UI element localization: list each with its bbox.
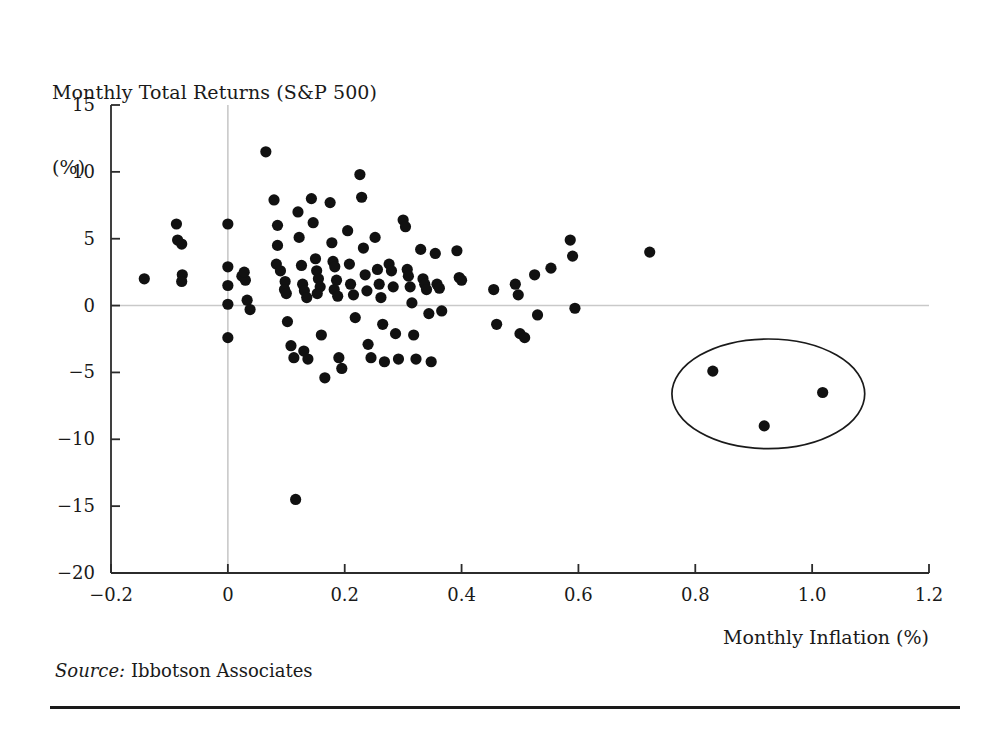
scatter-point — [301, 292, 312, 303]
scatter-point — [281, 288, 292, 299]
scatter-point — [393, 353, 404, 364]
scatter-point — [332, 291, 343, 302]
source-value: Ibbotson Associates — [131, 660, 313, 681]
scatter-point — [817, 387, 828, 398]
scatter-point — [345, 279, 356, 290]
scatter-point — [312, 288, 323, 299]
bottom-divider-rule — [50, 706, 960, 709]
x-tick-label: 0.8 — [681, 584, 710, 605]
scatter-point — [329, 261, 340, 272]
scatter-point — [222, 218, 233, 229]
scatter-point — [408, 329, 419, 340]
scatter-point — [388, 281, 399, 292]
scatter-point — [545, 263, 556, 274]
scatter-point — [513, 289, 524, 300]
scatter-point — [400, 221, 411, 232]
y-tick-label: 5 — [84, 228, 95, 249]
scatter-point — [176, 276, 187, 287]
scatter-point — [421, 284, 432, 295]
scatter-point — [410, 353, 421, 364]
scatter-point — [326, 237, 337, 248]
scatter-point — [244, 304, 255, 315]
y-tick-label: −5 — [68, 361, 95, 382]
scatter-point — [268, 194, 279, 205]
scatter-point — [567, 250, 578, 261]
x-axis-ticks: −0.200.20.40.60.81.01.2 — [89, 564, 943, 605]
scatter-point — [292, 206, 303, 217]
scatter-point — [306, 193, 317, 204]
scatter-point — [405, 281, 416, 292]
scatter-point — [331, 275, 342, 286]
scatter-point — [759, 420, 770, 431]
x-tick-label: −0.2 — [89, 584, 133, 605]
scatter-point — [403, 271, 414, 282]
scatter-point — [377, 319, 388, 330]
outlier-highlight-ellipse — [672, 339, 865, 449]
scatter-point — [356, 192, 367, 203]
scatter-point — [488, 284, 499, 295]
scatter-point — [360, 269, 371, 280]
annotations — [672, 339, 865, 449]
scatter-point — [379, 356, 390, 367]
scatter-point — [308, 217, 319, 228]
scatter-point — [239, 267, 250, 278]
scatter-point — [510, 279, 521, 290]
scatter-point — [362, 339, 373, 350]
scatter-point — [565, 234, 576, 245]
scatter-point — [372, 264, 383, 275]
source-note: Source: Ibbotson Associates — [55, 660, 313, 681]
scatter-point — [222, 261, 233, 272]
scatter-point — [436, 305, 447, 316]
scatter-point — [491, 319, 502, 330]
scatter-point — [451, 245, 462, 256]
scatter-point — [426, 356, 437, 367]
scatter-point — [282, 316, 293, 327]
scatter-point — [365, 352, 376, 363]
scatter-point — [296, 260, 307, 271]
scatter-point — [222, 299, 233, 310]
scatter-point — [406, 297, 417, 308]
scatter-point — [390, 328, 401, 339]
scatter-point — [176, 238, 187, 249]
scatter-point — [519, 332, 530, 343]
scatter-point — [290, 494, 301, 505]
scatter-point — [434, 283, 445, 294]
scatter-point — [415, 244, 426, 255]
scatter-figure: Monthly Total Returns (S&P 500) (%) 1510… — [0, 0, 984, 729]
scatter-point — [316, 329, 327, 340]
scatter-point — [386, 265, 397, 276]
x-tick-label: 0.2 — [330, 584, 359, 605]
scatter-point — [285, 340, 296, 351]
scatter-point — [348, 289, 359, 300]
scatter-point — [222, 280, 233, 291]
scatter-point — [354, 169, 365, 180]
scatter-point — [272, 220, 283, 231]
scatter-point — [342, 225, 353, 236]
y-tick-label: −20 — [57, 562, 95, 583]
scatter-point — [319, 372, 330, 383]
x-tick-label: 1.0 — [798, 584, 827, 605]
scatter-point — [707, 365, 718, 376]
scatter-point — [369, 232, 380, 243]
scatter-point — [350, 312, 361, 323]
scatter-point — [272, 240, 283, 251]
scatter-point — [644, 246, 655, 257]
source-label: Source: — [55, 660, 125, 681]
x-axis-title: Monthly Inflation (%) — [723, 626, 929, 648]
scatter-point — [430, 248, 441, 259]
scatter-point — [456, 275, 467, 286]
scatter-point — [310, 253, 321, 264]
scatter-point — [288, 352, 299, 363]
scatter-point — [171, 218, 182, 229]
scatter-point — [294, 232, 305, 243]
x-tick-label: 1.2 — [915, 584, 944, 605]
scatter-point — [358, 242, 369, 253]
scatter-point — [344, 259, 355, 270]
y-tick-label: 10 — [72, 161, 95, 182]
scatter-point — [325, 197, 336, 208]
x-tick-label: 0.6 — [564, 584, 593, 605]
scatter-point — [361, 285, 372, 296]
scatter-points — [139, 146, 829, 505]
y-tick-label: 15 — [72, 94, 95, 115]
scatter-point — [529, 269, 540, 280]
